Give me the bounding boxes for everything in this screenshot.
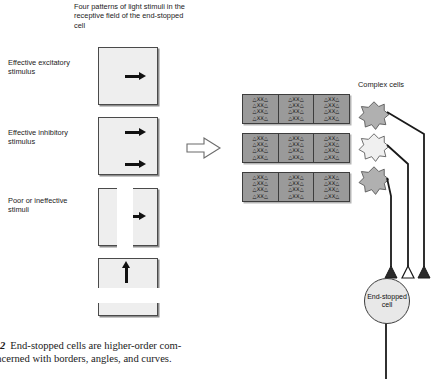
end-stopped-cell-soma: End-stopped cell — [364, 278, 410, 324]
axon-wiring — [0, 0, 439, 379]
caption-text-2: oncerned with borders, angles, and curve… — [0, 352, 268, 365]
end-stopped-cell-label: End-stopped cell — [365, 293, 409, 308]
caption-text-1: End-stopped cells are higher-order com- — [10, 340, 181, 351]
figure-end-stopped-cell: Four patterns of light stimuli in the re… — [0, 0, 439, 379]
caption-number: 2 — [0, 340, 5, 351]
caption-line-1: 2End-stopped cells are higher-order com- — [0, 340, 181, 351]
figure-caption: 2End-stopped cells are higher-order com-… — [0, 339, 268, 366]
terminal-right-filled-icon — [418, 266, 430, 278]
terminal-left-filled-icon — [385, 266, 397, 278]
terminal-middle-open-icon — [402, 266, 414, 278]
